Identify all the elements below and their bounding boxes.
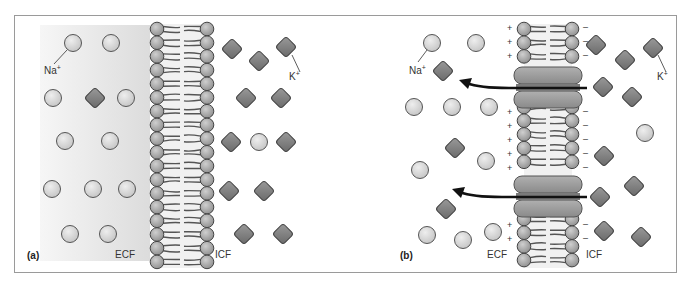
lipid-head [150,50,164,64]
sodium-ion [65,35,82,52]
panel-a-ecf-label: ECF [115,249,135,260]
panel-b-ecf-label: ECF [487,249,507,260]
lipid-head [517,114,531,128]
potassium-ion [270,87,291,108]
potassium-ion [435,198,456,219]
potassium-ion [592,76,613,97]
lipid-head [200,104,214,118]
panel-b-sodium-label: Na+ [409,64,426,76]
sodium-ion [424,35,441,52]
sodium-ion [251,134,268,151]
potassium-ion [621,86,642,107]
lipid-tail [163,109,180,110]
positive-charge: + [507,220,512,230]
lipid-head [150,118,164,132]
positive-charge: + [507,135,512,145]
lipid-head [565,155,579,169]
potassium-ion [593,145,614,166]
sodium-ion [85,181,102,198]
positive-charge: + [507,51,512,61]
lipid-head [150,159,164,173]
lipid-tail [184,222,201,223]
potassium-ion [623,175,644,196]
negative-charge: – [583,106,588,116]
positive-charge: + [507,23,512,33]
lipid-head [565,240,579,254]
lipid-head [517,240,531,254]
panel-b-icf-label: ICF [586,249,602,260]
lipid-head [200,50,214,64]
lipid-tail [163,94,180,95]
negative-charge: – [583,36,588,46]
panel-a-potassium-label: K+ [289,70,300,82]
lipid-tail [163,218,180,219]
lipid-tail [550,221,566,222]
lipid-head [200,241,214,255]
lipid-head [150,200,164,214]
sodium-ion [455,232,472,249]
lipid-head [517,50,531,64]
sodium-ion [102,133,119,150]
negative-charge: – [583,120,588,130]
lipid-tail [550,45,566,46]
negative-charge: – [583,219,588,229]
potassium-ion [220,131,241,152]
positive-charge: + [507,149,512,159]
lipid-tail [184,58,201,59]
potassium-ion [272,223,293,244]
sodium-ion [100,226,117,243]
lipid-tail [163,245,180,246]
lipid-head [565,22,579,36]
panel-b-potassium-label: K+ [657,70,668,82]
lipid-head [150,214,164,228]
lipid-head [200,159,214,173]
lipid-tail [163,204,180,205]
lipid-tail [550,26,566,27]
sodium-ion [444,99,461,116]
lipid-head [150,146,164,160]
sodium-ion [45,90,62,107]
lipid-head [200,118,214,132]
lipid-tail [550,59,566,60]
lipid-head [517,22,531,36]
lipid-head [200,214,214,228]
lipid-head [150,241,164,255]
lipid-tail [184,94,201,95]
potassium-ion [589,186,610,207]
positive-charge: + [507,37,512,47]
panel-a-icf-label: ICF [215,249,231,260]
sodium-ion [406,99,423,116]
negative-charge: – [583,50,588,60]
positive-charge: + [507,163,512,173]
potassium-ion [235,87,256,108]
potassium-ion [432,60,453,81]
lipid-head [150,187,164,201]
lipid-head [150,228,164,242]
lipid-head [200,255,214,269]
lipid-tail [530,40,546,41]
lipid-head [517,36,531,50]
panel-a-sodium-label: Na+ [44,64,61,76]
sodium-ion [637,125,654,142]
lipid-head [517,253,531,267]
lipid-head [200,63,214,77]
lipid-head [517,226,531,240]
sodium-ion [44,181,61,198]
lipid-head [200,173,214,187]
sodium-ion [62,226,79,243]
sodium-ion [118,90,135,107]
sodium-ion [57,133,74,150]
lipid-head [565,50,579,64]
negative-charge: – [583,233,588,243]
lipid-head [200,91,214,105]
panel-a-label: (a) [27,250,39,261]
lipid-head [150,173,164,187]
potassium-ion [275,36,296,57]
potassium-ion [585,34,606,55]
sodium-ion [481,99,498,116]
lipid-tail [163,223,180,224]
sodium-ion [419,227,436,244]
lipid-head [150,22,164,36]
lipid-tail [530,27,546,28]
sodium-ion [468,35,485,52]
